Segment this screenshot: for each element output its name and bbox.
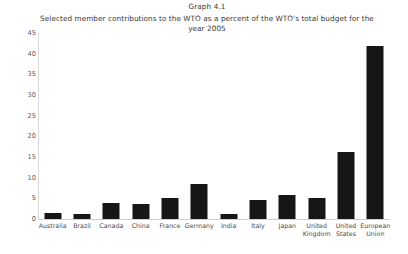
bar[interactable] bbox=[132, 204, 149, 219]
y-tick-label: 10 bbox=[14, 174, 36, 182]
bar-slot bbox=[97, 33, 126, 219]
bar-slot bbox=[331, 33, 360, 219]
y-tick-label: 40 bbox=[14, 50, 36, 58]
bar-slot bbox=[243, 33, 272, 219]
bar[interactable] bbox=[308, 198, 325, 219]
y-tick-label: 5 bbox=[14, 194, 36, 202]
chart-title-block: Graph 4.1 Selected member contributions … bbox=[32, 2, 382, 35]
bar[interactable] bbox=[249, 200, 266, 219]
bar-slot bbox=[302, 33, 331, 219]
bar-series bbox=[38, 33, 390, 219]
bar[interactable] bbox=[44, 213, 61, 219]
y-tick-label: 25 bbox=[14, 112, 36, 120]
bar[interactable] bbox=[337, 152, 354, 219]
bar-slot bbox=[38, 33, 67, 219]
bar-slot bbox=[214, 33, 243, 219]
x-tick-label: European Union bbox=[358, 222, 392, 237]
chart-subtitle: Selected member contributions to the WTO… bbox=[32, 14, 382, 35]
y-tick-label: 20 bbox=[14, 132, 36, 140]
y-axis-ticks: 051015202530354045 bbox=[10, 33, 36, 219]
bar[interactable] bbox=[103, 203, 120, 219]
bar[interactable] bbox=[161, 198, 178, 219]
bar[interactable] bbox=[220, 214, 237, 219]
y-tick-label: 45 bbox=[14, 29, 36, 37]
bar-slot bbox=[67, 33, 96, 219]
bar-slot bbox=[185, 33, 214, 219]
bar[interactable] bbox=[367, 46, 384, 219]
x-axis-labels: AustraliaBrazilCanadaChinaFranceGermanyI… bbox=[38, 222, 390, 252]
y-tick-label: 0 bbox=[14, 215, 36, 223]
chart-title: Graph 4.1 bbox=[32, 2, 382, 13]
bar[interactable] bbox=[279, 195, 296, 219]
bar[interactable] bbox=[73, 214, 90, 219]
bar-slot bbox=[126, 33, 155, 219]
chart-figure: Graph 4.1 Selected member contributions … bbox=[0, 0, 408, 254]
x-axis-line bbox=[38, 219, 390, 220]
bar[interactable] bbox=[191, 184, 208, 219]
bar-slot bbox=[155, 33, 184, 219]
y-tick-label: 15 bbox=[14, 153, 36, 161]
y-tick-label: 30 bbox=[14, 91, 36, 99]
bar-slot bbox=[273, 33, 302, 219]
bar-slot bbox=[361, 33, 390, 219]
y-tick-label: 35 bbox=[14, 70, 36, 78]
